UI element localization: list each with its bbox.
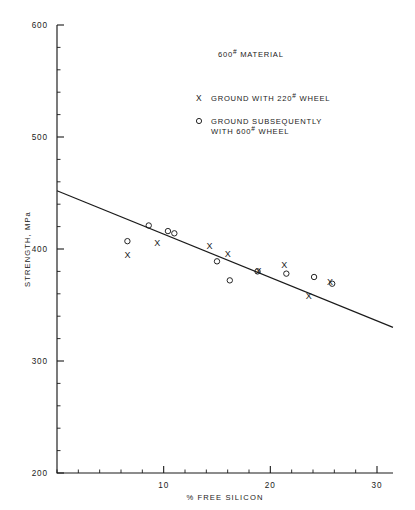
scatter-plot-svg: 200300400500600 102030 STRENGTH, MPa % F… (0, 0, 415, 510)
data-point-circle (125, 238, 130, 243)
data-point-x: X (225, 249, 231, 259)
y-tick-label: 300 (32, 357, 48, 366)
data-point-circle (214, 259, 219, 264)
y-axis-title: STRENGTH, MPa (23, 211, 32, 287)
legend-marker-o (196, 118, 201, 123)
x-tick-label: 30 (372, 481, 383, 490)
x-axis-major-ticks (164, 466, 377, 473)
y-tick-label: 500 (32, 133, 48, 142)
legend-marker-x: X (196, 93, 202, 103)
data-point-x: X (154, 238, 160, 248)
data-point-x: X (256, 266, 262, 276)
data-point-circle (227, 278, 232, 283)
y-tick-label: 400 (32, 245, 48, 254)
legend-block: 600# MATERIAL X GROUND WITH 220# WHEEL G… (196, 48, 330, 136)
trend-line (57, 191, 393, 328)
data-point-x: X (281, 260, 287, 270)
chart-figure: 200300400500600 102030 STRENGTH, MPa % F… (0, 0, 415, 510)
data-point-x: X (207, 241, 213, 251)
x-axis-title: % FREE SILICON (186, 493, 263, 502)
y-tick-label: 200 (32, 469, 48, 478)
series-ground-220-markers: XXXXXXXX (124, 238, 333, 302)
x-tick-label: 20 (265, 481, 276, 490)
data-point-circle (284, 271, 289, 276)
data-point-circle (165, 228, 170, 233)
data-point-circle (146, 223, 151, 228)
data-point-x: X (124, 250, 130, 260)
x-tick-label: 10 (158, 481, 169, 490)
data-point-circle (172, 231, 177, 236)
data-point-circle (311, 274, 316, 279)
data-point-x: X (306, 291, 312, 301)
legend-label-ground-220: GROUND WITH 220# WHEEL (211, 92, 330, 103)
legend-label-ground-600-line2: WITH 600# WHEEL (211, 125, 289, 136)
legend-label-ground-600-line1: GROUND SUBSEQUENTLY (211, 117, 322, 126)
x-axis-tick-labels: 102030 (158, 481, 382, 490)
y-axis-tick-labels: 200300400500600 (32, 21, 48, 478)
legend-title: 600# MATERIAL (218, 48, 284, 59)
data-point-x: X (327, 277, 333, 287)
y-tick-label: 600 (32, 21, 48, 30)
